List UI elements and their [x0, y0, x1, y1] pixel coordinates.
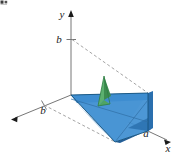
dashed-y-to-corner: [72, 40, 148, 94]
y-axis-tick-label-b: b: [56, 33, 62, 45]
blue-solid: [71, 91, 153, 143]
x-axis-label: x: [165, 142, 171, 154]
y-axis-arrow: [68, 10, 74, 17]
x-axis-tick-label-a: a: [143, 127, 149, 139]
y-axis-label: y: [59, 8, 65, 20]
z-axis-tick-label-b: b: [40, 104, 46, 116]
crop-artifact: [1, 1, 8, 5]
z-axis-arrow: [11, 116, 18, 122]
figure-container: y x b b a: [0, 0, 181, 156]
solid-right-face: [148, 91, 153, 131]
three-d-solid-diagram: y x b b a: [0, 0, 181, 156]
